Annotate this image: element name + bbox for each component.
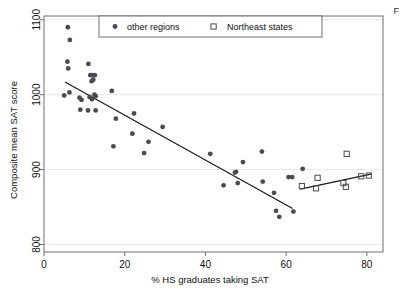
data-point-other-regions	[208, 151, 213, 156]
data-point-other-regions	[109, 89, 114, 94]
data-point-other-regions	[93, 108, 98, 113]
data-point-other-regions	[260, 179, 265, 184]
data-point-other-regions	[274, 208, 279, 213]
scatter-chart: 02040608080090010001100 other regionsNor…	[0, 0, 400, 296]
data-point-other-regions	[89, 79, 94, 84]
data-point-other-regions	[277, 214, 282, 219]
legend-marker-filled-circle-icon	[113, 24, 118, 29]
data-point-other-regions	[92, 73, 97, 78]
figure-container: 02040608080090010001100 other regionsNor…	[0, 0, 400, 296]
y-tick-label-900: 900	[32, 161, 43, 178]
data-point-other-regions	[260, 149, 265, 154]
x-tick-label-0: 0	[41, 259, 47, 270]
data-point-other-regions	[272, 190, 277, 195]
x-tick-label-80: 80	[361, 259, 373, 270]
x-tick-label-20: 20	[119, 259, 131, 270]
data-point-other-regions	[221, 183, 226, 188]
data-point-other-regions	[241, 160, 246, 165]
legend-label-other-regions: other regions	[127, 22, 180, 32]
y-tick-label-1000: 1000	[32, 83, 43, 106]
legend-label-northeast-states: Northeast states	[227, 22, 293, 32]
data-point-other-regions	[65, 59, 70, 64]
data-point-other-regions	[86, 62, 91, 67]
data-point-other-regions	[290, 175, 295, 180]
data-point-other-regions	[65, 25, 70, 30]
data-point-other-regions	[300, 166, 305, 171]
y-axis-title: Composite mean SAT score	[8, 81, 19, 199]
y-tick-label-1100: 1100	[31, 9, 42, 31]
data-point-other-regions	[132, 111, 137, 116]
data-point-other-regions	[160, 124, 165, 129]
data-point-other-regions	[66, 66, 71, 71]
data-point-other-regions	[67, 90, 72, 95]
data-point-other-regions	[86, 108, 91, 113]
x-tick-label-60: 60	[281, 259, 293, 270]
x-tick-label-40: 40	[200, 259, 212, 270]
data-point-other-regions	[78, 107, 83, 112]
data-point-other-regions	[142, 151, 147, 156]
data-point-other-regions	[62, 93, 67, 98]
data-point-other-regions	[67, 38, 72, 43]
data-point-other-regions	[232, 170, 237, 175]
x-axis-title: % HS graduates taking SAT	[151, 274, 269, 285]
data-point-other-regions	[235, 181, 240, 186]
data-point-other-regions	[113, 116, 118, 121]
data-point-other-regions	[146, 139, 151, 144]
data-point-other-regions	[79, 98, 84, 103]
data-point-other-regions	[93, 94, 98, 99]
data-point-other-regions	[291, 209, 296, 214]
data-point-other-regions	[130, 131, 135, 136]
data-point-other-regions	[111, 144, 116, 149]
legend: other regionsNortheast states	[99, 16, 322, 37]
page-edge-artifact: F	[394, 6, 400, 16]
y-tick-label-800: 800	[32, 236, 43, 253]
